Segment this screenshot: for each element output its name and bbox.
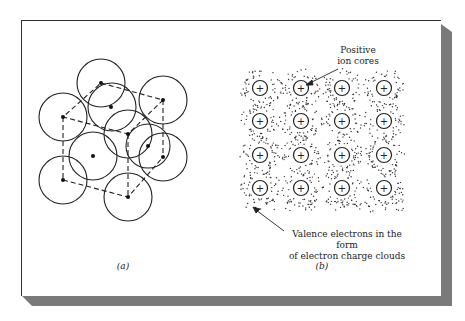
label-line-1: Valence electrons in the form <box>282 229 412 251</box>
plus-icon: + <box>338 116 346 127</box>
plus-icon: + <box>297 183 305 194</box>
panel-a-unit-cell <box>63 83 163 197</box>
ion-core: + <box>377 81 392 96</box>
ion-core: + <box>294 148 309 163</box>
ion-core: + <box>294 114 309 129</box>
plus-icon: + <box>380 150 388 161</box>
panel-a-atom-centers <box>61 81 165 199</box>
plus-icon: + <box>297 116 305 127</box>
ion-core: + <box>335 148 350 163</box>
ion-core: + <box>377 181 392 196</box>
ion-core: + <box>335 81 350 96</box>
plus-icon: + <box>256 183 264 194</box>
plus-icon: + <box>380 183 388 194</box>
plus-icon: + <box>297 150 305 161</box>
plus-icon: + <box>256 116 264 127</box>
plus-icon: + <box>338 83 346 94</box>
ion-core: + <box>294 81 309 96</box>
ion-core: + <box>253 114 268 129</box>
positive-ion-cores-label: Positive ion cores <box>318 45 398 67</box>
ion-core: + <box>253 181 268 196</box>
ion-core: + <box>377 114 392 129</box>
plus-icon: + <box>256 150 264 161</box>
plus-icon: + <box>338 150 346 161</box>
plus-icon: + <box>380 83 388 94</box>
caption-a: (a) <box>108 261 138 272</box>
label-line-2: ion cores <box>318 56 398 67</box>
ion-cores: ++++++++++++++++ <box>253 81 392 196</box>
plus-icon: + <box>380 116 388 127</box>
ion-core: + <box>377 148 392 163</box>
ion-core: + <box>253 81 268 96</box>
label-line-2: of electron charge clouds <box>282 251 412 262</box>
ion-core: + <box>335 181 350 196</box>
valence-electrons-label: Valence electrons in the form of electro… <box>282 229 412 262</box>
plus-icon: + <box>256 83 264 94</box>
caption-b: (b) <box>307 261 337 272</box>
ion-core: + <box>294 181 309 196</box>
panel-a-atoms <box>39 59 187 221</box>
ion-core: + <box>335 114 350 129</box>
plus-icon: + <box>338 183 346 194</box>
plus-icon: + <box>297 83 305 94</box>
ion-core: + <box>253 148 268 163</box>
label-line-1: Positive <box>318 45 398 56</box>
